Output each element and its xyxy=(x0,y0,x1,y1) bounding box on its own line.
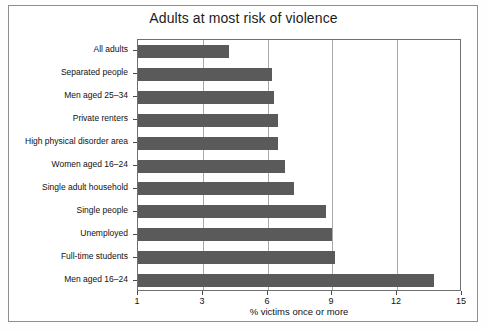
x-axis-tick-label: 12 xyxy=(381,296,411,306)
x-axis-tick xyxy=(461,291,462,295)
chart-figure: Adults at most risk of violence All adul… xyxy=(0,0,487,331)
bar xyxy=(138,274,434,287)
x-axis-tick xyxy=(202,291,203,295)
gridline xyxy=(397,40,398,290)
bar xyxy=(138,205,326,218)
x-axis-tick xyxy=(267,291,268,295)
category-label: Single adult household xyxy=(0,183,128,192)
x-axis-tick xyxy=(331,291,332,295)
category-label: All adults xyxy=(0,45,128,54)
bar xyxy=(138,91,274,104)
x-axis-tick-label: 9 xyxy=(316,296,346,306)
bar xyxy=(138,228,332,241)
x-axis-tick xyxy=(137,291,138,295)
chart-title: Adults at most risk of violence xyxy=(0,10,487,26)
x-axis-tick-label: 1 xyxy=(122,296,152,306)
x-axis-tick xyxy=(396,291,397,295)
category-label: Private renters xyxy=(0,114,128,123)
x-axis-tick-label: 15 xyxy=(446,296,476,306)
bar xyxy=(138,182,294,195)
plot-area xyxy=(137,39,461,291)
category-label: Men aged 25–34 xyxy=(0,91,128,100)
bar xyxy=(138,114,278,127)
x-axis-tick-label: 3 xyxy=(187,296,217,306)
bar xyxy=(138,160,285,173)
category-label: Women aged 16–24 xyxy=(0,160,128,169)
category-label: Full-time students xyxy=(0,252,128,261)
category-label: High physical disorder area xyxy=(0,137,128,146)
category-label: Single people xyxy=(0,206,128,215)
bar xyxy=(138,68,272,81)
category-label: Separated people xyxy=(0,68,128,77)
bar xyxy=(138,45,229,58)
category-label: Men aged 16–24 xyxy=(0,275,128,284)
bar xyxy=(138,137,278,150)
x-axis-title: % victims once or more xyxy=(137,306,461,317)
bar xyxy=(138,251,335,264)
category-label: Unemployed xyxy=(0,229,128,238)
x-axis-tick-label: 6 xyxy=(252,296,282,306)
